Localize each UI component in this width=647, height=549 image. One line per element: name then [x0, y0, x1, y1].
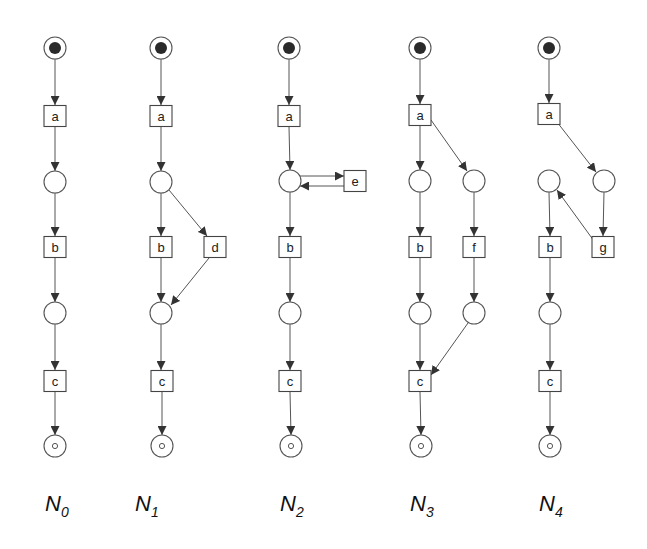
transition-b: b [279, 237, 301, 258]
net-n1: abdcN1 [135, 37, 226, 520]
place-circle [280, 435, 302, 457]
token-icon [414, 42, 426, 54]
place-circle [150, 302, 172, 324]
transition-a: a [409, 105, 431, 126]
transition-label: b [416, 240, 423, 255]
transition-a: a [278, 106, 300, 127]
transition-b: b [539, 237, 561, 258]
place-normal [150, 171, 172, 193]
net-n3: abfcN3 [409, 37, 485, 520]
place-final [280, 435, 302, 457]
place-initial [150, 37, 172, 59]
transition-label: a [285, 109, 293, 124]
place-circle [463, 302, 485, 324]
place-circle [538, 170, 560, 192]
place-circle [410, 435, 432, 457]
place-circle [539, 302, 561, 324]
token-icon [49, 42, 61, 54]
net-label: N0 [45, 491, 69, 520]
transition-label: a [51, 109, 59, 124]
place-final [539, 435, 561, 457]
net-label-main: N [539, 491, 555, 516]
place-circle [279, 302, 301, 324]
place-initial [538, 37, 560, 59]
place-normal [409, 302, 431, 324]
net-label-main: N [45, 491, 61, 516]
transition-g: g [592, 237, 614, 258]
transition-label: c [417, 374, 424, 389]
arc-arrow [557, 190, 594, 241]
nets-layer: abcN0abdcN1aebcN2abfcN3abgcN4 [44, 37, 615, 520]
arc-arrow [549, 192, 550, 236]
transition-label: a [545, 107, 553, 122]
place-normal [539, 302, 561, 324]
place-initial [44, 37, 66, 59]
place-initial [409, 37, 431, 59]
arc-arrow [290, 392, 291, 435]
net-n4: abgcN4 [538, 37, 615, 520]
transition-b: b [44, 237, 66, 258]
net-label-subscript: 4 [555, 504, 563, 520]
place-normal [44, 302, 66, 324]
transition-a: a [538, 104, 560, 125]
transition-label: c [547, 374, 554, 389]
place-final [410, 435, 432, 457]
place-normal [150, 302, 172, 324]
place-normal [538, 170, 560, 192]
transition-label: f [472, 240, 476, 255]
petri-net-diagram: abcN0abdcN1aebcN2abfcN3abgcN4 [0, 0, 647, 549]
transition-d: d [204, 237, 226, 258]
arc-arrow [603, 192, 604, 236]
arc-arrow [289, 127, 290, 170]
arc-arrow [431, 323, 468, 375]
net-label-main: N [280, 491, 296, 516]
net-label-subscript: 0 [61, 504, 69, 520]
transition-c: c [279, 371, 301, 392]
place-normal [279, 302, 301, 324]
transition-c: c [151, 371, 173, 392]
net-label: N4 [539, 491, 563, 520]
transition-label: b [51, 240, 58, 255]
place-circle [44, 171, 66, 193]
transition-label: d [211, 240, 218, 255]
arc-arrow [171, 258, 209, 305]
transition-c: c [539, 371, 561, 392]
net-label: N3 [410, 491, 434, 520]
net-n2: aebcN2 [278, 37, 366, 520]
transition-e: e [344, 171, 366, 192]
place-normal [409, 170, 431, 192]
transition-f: f [463, 237, 485, 258]
net-label-subscript: 3 [426, 504, 434, 520]
transition-b: b [150, 237, 172, 258]
net-label-subscript: 2 [295, 504, 304, 520]
transition-label: e [351, 174, 358, 189]
transition-label: g [599, 240, 606, 255]
arc-arrow [431, 120, 467, 171]
transition-label: c [52, 374, 59, 389]
place-normal [44, 171, 66, 193]
transition-label: b [157, 240, 164, 255]
place-final [151, 435, 173, 457]
place-initial [278, 37, 300, 59]
place-normal [593, 170, 615, 192]
place-normal [279, 170, 301, 192]
token-icon [155, 42, 167, 54]
place-circle [150, 171, 172, 193]
transition-a: a [44, 106, 66, 127]
token-icon [543, 42, 555, 54]
transition-c: c [409, 371, 431, 392]
place-normal [463, 170, 485, 192]
arc-arrow [557, 122, 596, 172]
place-circle [279, 170, 301, 192]
transition-label: a [157, 109, 165, 124]
place-circle [44, 302, 66, 324]
place-circle [44, 435, 66, 457]
net-label-main: N [135, 491, 151, 516]
place-normal [463, 302, 485, 324]
transition-b: b [409, 237, 431, 258]
net-label-main: N [410, 491, 426, 516]
place-circle [151, 435, 173, 457]
net-label: N1 [135, 491, 159, 520]
transition-c: c [44, 371, 66, 392]
net-n0: abcN0 [44, 37, 69, 520]
